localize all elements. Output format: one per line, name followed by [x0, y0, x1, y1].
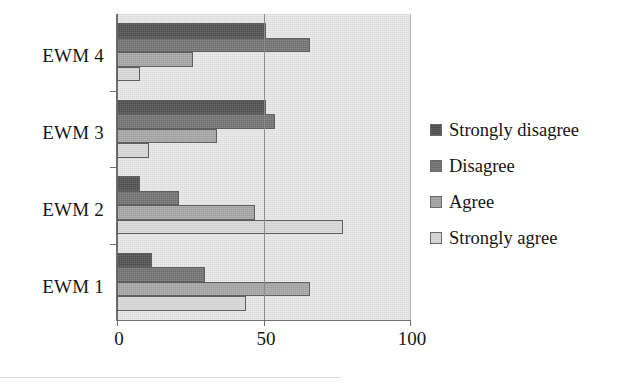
legend-item-strongly-disagree: Strongly disagree [430, 112, 630, 148]
plot-right-edge [410, 14, 411, 320]
x-tick-label-100: 100 [398, 328, 427, 350]
legend-swatch-icon-agree [430, 196, 442, 208]
legend-item-agree: Agree [430, 184, 630, 220]
y-tick-1 [110, 91, 117, 92]
bar-ewm-4-disagree [117, 38, 310, 53]
bar-ewm-3-agree [117, 129, 217, 144]
legend-label-disagree: Disagree [449, 157, 515, 176]
legend-item-disagree: Disagree [430, 148, 630, 184]
bar-ewm-1-strongly-agree [117, 296, 246, 311]
x-tick-50 [264, 320, 265, 326]
bar-ewm-2-strongly-disagree [117, 176, 140, 191]
legend-label-strongly-agree: Strongly agree [449, 229, 557, 248]
gridline-x-50 [264, 14, 265, 320]
bar-ewm-2-agree [117, 205, 255, 220]
y-tick-2 [110, 167, 117, 168]
legend-swatch-icon-strongly-agree [430, 232, 442, 244]
bar-ewm-4-strongly-disagree [117, 23, 266, 38]
chart-legend: Strongly disagree Disagree Agree Strongl… [430, 112, 630, 256]
bar-ewm-1-agree [117, 282, 310, 297]
page-bottom-rule [0, 377, 340, 378]
y-label-ewm-1: EWM 1 [4, 276, 104, 298]
y-label-ewm-2: EWM 2 [4, 199, 104, 221]
bar-ewm-3-disagree [117, 114, 275, 129]
bar-ewm-1-strongly-disagree [117, 253, 152, 268]
bar-ewm-3-strongly-agree [117, 143, 149, 158]
legend-label-strongly-disagree: Strongly disagree [449, 121, 579, 140]
bar-ewm-4-strongly-agree [117, 67, 140, 82]
y-label-ewm-3: EWM 3 [4, 122, 104, 144]
bar-ewm-3-strongly-disagree [117, 100, 266, 115]
bar-ewm-4-agree [117, 52, 193, 67]
y-axis-labels: EWM 4 EWM 3 EWM 2 EWM 1 [0, 0, 104, 384]
bar-ewm-1-disagree [117, 267, 205, 282]
x-tick-0 [117, 320, 118, 326]
legend-item-strongly-agree: Strongly agree [430, 220, 630, 256]
bar-ewm-2-disagree [117, 191, 179, 206]
x-tick-label-0: 0 [114, 328, 124, 350]
x-tick-label-50: 50 [257, 328, 276, 350]
x-tick-100 [410, 320, 411, 326]
y-label-ewm-4: EWM 4 [4, 45, 104, 67]
bar-chart-figure: EWM 4 EWM 3 EWM 2 EWM 1 0 50 100 Strongl… [0, 0, 637, 384]
bar-ewm-2-strongly-agree [117, 220, 343, 235]
legend-swatch-icon-disagree [430, 160, 442, 172]
y-tick-3 [110, 244, 117, 245]
legend-label-agree: Agree [449, 193, 494, 212]
legend-swatch-icon-strongly-disagree [430, 124, 442, 136]
